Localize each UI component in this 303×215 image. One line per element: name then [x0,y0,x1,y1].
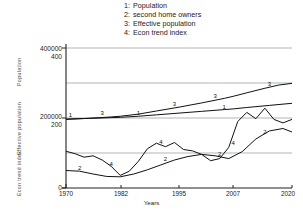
axis-lines [62,44,292,188]
curve-label-2: 2 [78,165,82,171]
curve-label-4: 4 [110,161,114,167]
chart-figure: 1: Population 2: second home owners 3: E… [0,0,303,215]
curve-label-4: 4 [232,140,236,146]
curve-label-3: 3 [100,110,104,116]
chart-plot-area: 11122223333444 [0,0,303,215]
series-paths [66,83,292,176]
curve-label-3: 3 [268,81,272,87]
curve-label-1: 1 [69,112,73,118]
curve-label-3: 3 [213,93,217,99]
curve-label-1: 1 [223,104,227,110]
curve-label-2: 2 [164,156,168,162]
curve-label-1: 1 [137,110,141,116]
curve-label-2: 2 [263,129,267,135]
curve-label-3: 3 [173,101,177,107]
curve-label-4: 4 [159,139,163,145]
